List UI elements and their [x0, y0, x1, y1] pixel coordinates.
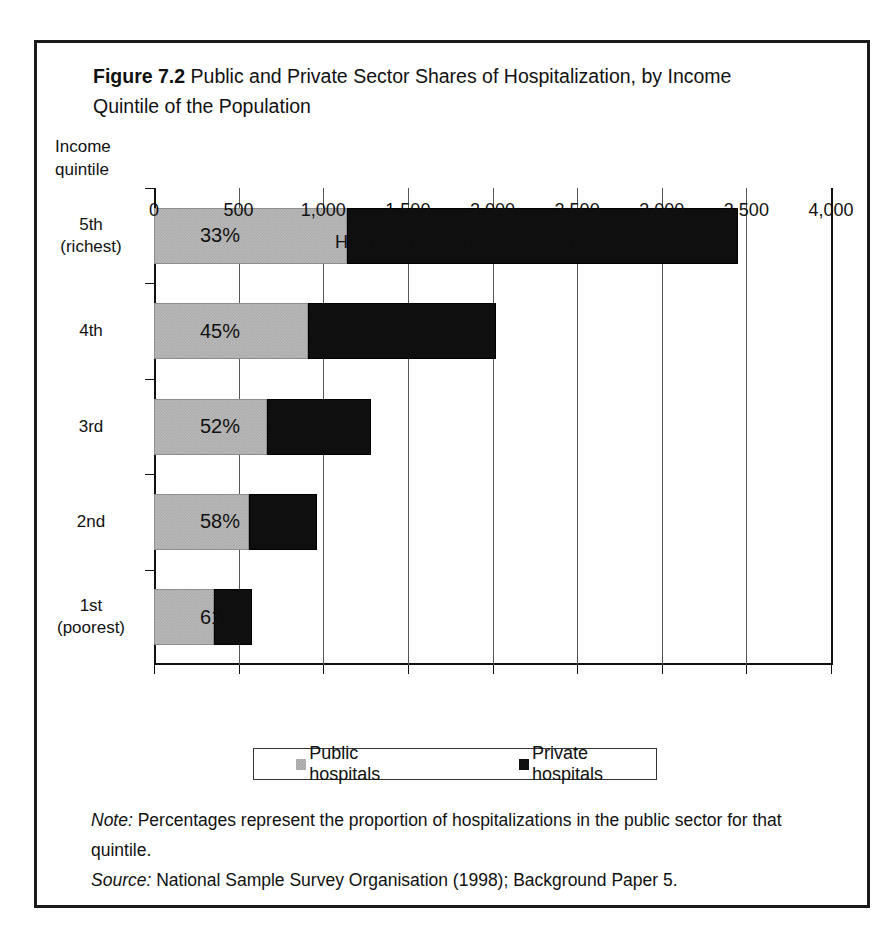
gridline-4000	[831, 188, 833, 665]
legend-item-private: Private hospitals	[519, 743, 656, 785]
x-axis-tick	[662, 665, 663, 674]
y-axis-category-label: 5th(richest)	[36, 214, 146, 258]
y-axis-header: Income quintile	[55, 135, 111, 181]
bar-segment-private	[308, 303, 496, 359]
x-axis-tick	[239, 665, 240, 674]
y-axis-header-line2: quintile	[55, 158, 111, 181]
bar-percent-label: 52%	[154, 399, 240, 455]
x-axis-tick-label: 3,000	[639, 200, 684, 221]
note-keyword: Note:	[91, 810, 133, 830]
bar-row: 58%	[154, 494, 831, 550]
figure-frame: Figure 7.2 Public and Private Sector Sha…	[34, 40, 870, 908]
y-axis-tick	[145, 283, 154, 284]
bar-segment-private	[249, 494, 318, 550]
figure-note: Note: Percentages represent the proporti…	[91, 805, 831, 865]
source-text: National Sample Survey Organisation (199…	[151, 870, 677, 890]
figure-number: Figure 7.2	[93, 65, 185, 87]
legend-swatch-public-icon	[296, 759, 306, 770]
legend-swatch-private-icon	[519, 759, 529, 770]
y-axis-tick	[145, 474, 154, 475]
x-axis-tick-label: 4,000	[808, 200, 853, 221]
bar-row: 52%	[154, 399, 831, 455]
bar-row: 61%	[154, 589, 831, 645]
legend-label-private: Private hospitals	[532, 743, 656, 785]
x-axis-title: Hospitalizations per 100,000 population	[154, 232, 831, 253]
x-axis-tick	[493, 665, 494, 674]
x-axis-tick-label: 0	[149, 200, 159, 221]
x-axis-tick	[831, 665, 832, 674]
note-text: Percentages represent the proportion of …	[91, 810, 782, 860]
category-label-main: 2nd	[36, 511, 146, 533]
y-axis-tick	[145, 570, 154, 571]
x-axis-tick	[746, 665, 747, 674]
y-axis-category-label: 3rd	[36, 416, 146, 438]
legend-item-public: Public hospitals	[296, 743, 427, 785]
bar-row: 45%	[154, 303, 831, 359]
x-axis-tick-label: 2,000	[470, 200, 515, 221]
figure-footnotes: Note: Percentages represent the proporti…	[91, 805, 831, 895]
x-axis-tick-label: 1,500	[385, 200, 430, 221]
y-axis-category-label: 2nd	[36, 511, 146, 533]
y-axis-tick	[145, 188, 154, 189]
y-axis-category-labels: 5th(richest)4th3rd2nd1st(poorest)	[36, 188, 146, 665]
legend-label-public: Public hospitals	[309, 743, 426, 785]
y-axis-tick	[145, 379, 154, 380]
category-label-sub: (richest)	[36, 236, 146, 258]
bar-percent-label: 45%	[154, 303, 240, 359]
x-axis-tick-label: 1,000	[301, 200, 346, 221]
chart-legend: Public hospitals Private hospitals	[253, 748, 657, 780]
category-label-main: 5th	[36, 214, 146, 236]
bar-percent-label: 58%	[154, 494, 240, 550]
chart-plot-area: 33%45%52%58%61% 5th(richest)4th3rd2nd1st…	[154, 188, 831, 665]
bar-segment-private	[267, 399, 371, 455]
x-axis-tick	[577, 665, 578, 674]
x-axis-tick	[408, 665, 409, 674]
y-axis-category-label: 1st(poorest)	[36, 595, 146, 639]
category-label-main: 3rd	[36, 416, 146, 438]
category-label-main: 1st	[36, 595, 146, 617]
figure-title-text: Public and Private Sector Shares of Hosp…	[93, 65, 731, 117]
source-keyword: Source:	[91, 870, 151, 890]
x-axis-tick-label: 2,500	[555, 200, 600, 221]
x-axis-tick	[154, 665, 155, 674]
x-axis-tick-label: 3,500	[724, 200, 769, 221]
category-label-main: 4th	[36, 320, 146, 342]
y-axis-category-label: 4th	[36, 320, 146, 342]
y-axis-header-line1: Income	[55, 135, 111, 158]
figure-title: Figure 7.2 Public and Private Sector Sha…	[93, 61, 793, 121]
x-axis-tick-label: 500	[224, 200, 254, 221]
x-axis-tick	[323, 665, 324, 674]
bar-percent-label: 61%	[154, 589, 240, 645]
category-label-sub: (poorest)	[36, 617, 146, 639]
figure-source: Source: National Sample Survey Organisat…	[91, 865, 831, 895]
